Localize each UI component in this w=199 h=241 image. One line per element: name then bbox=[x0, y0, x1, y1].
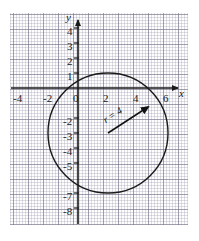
y-tick-label: -4 bbox=[63, 146, 72, 157]
y-tick-label: 4 bbox=[67, 26, 73, 37]
x-tick-label: -4 bbox=[13, 93, 22, 104]
y-tick-label: -7 bbox=[63, 191, 72, 202]
x-tick-label: 0 bbox=[73, 93, 79, 104]
y-tick-label: 2 bbox=[67, 56, 73, 67]
x-tick-label: -2 bbox=[43, 93, 52, 104]
y-tick-label: -2 bbox=[63, 116, 72, 127]
plot-layer bbox=[0, 0, 199, 241]
y-tick-label: 1 bbox=[67, 71, 73, 82]
x-tick-label: 2 bbox=[103, 93, 109, 104]
y-tick-label: -5 bbox=[63, 161, 72, 172]
y-tick-label: -8 bbox=[63, 206, 72, 217]
x-tick-label: 4 bbox=[133, 93, 139, 104]
x-tick-label: 6 bbox=[163, 93, 169, 104]
coordinate-graph-figure: y x r = 4 -4-202464321-2-3-4-5-7-8 bbox=[0, 0, 199, 241]
x-axis-label: x bbox=[179, 88, 184, 99]
y-tick-label: 3 bbox=[67, 41, 73, 52]
y-axis-label: y bbox=[66, 12, 71, 23]
y-tick-label: -3 bbox=[63, 131, 72, 142]
